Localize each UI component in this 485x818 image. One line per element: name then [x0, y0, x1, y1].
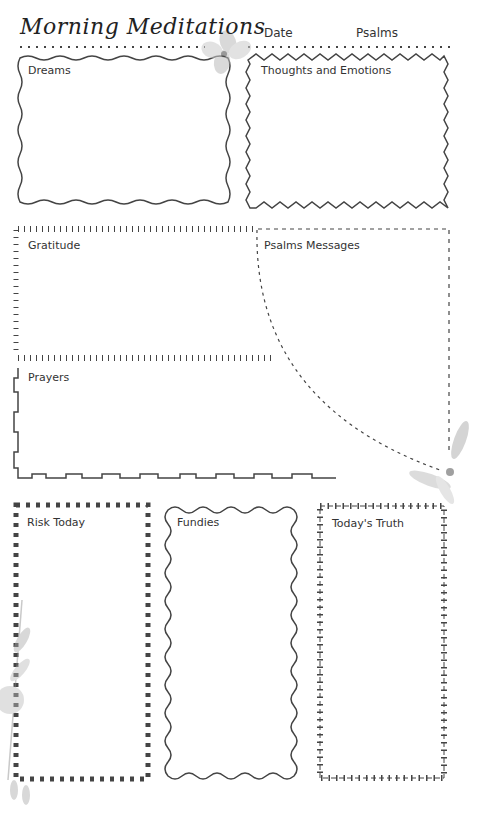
date-label: Date [264, 26, 293, 40]
risk-today-box [16, 505, 148, 779]
flower-right-icon [407, 419, 472, 506]
dreams-box [18, 56, 230, 204]
section-label-risk-today: Risk Today [27, 516, 85, 529]
psalms-label: Psalms [356, 26, 398, 40]
page-title: Morning Meditations [20, 14, 265, 39]
section-label-dreams: Dreams [28, 64, 71, 77]
section-label-psalms-messages: Psalms Messages [264, 239, 360, 252]
section-label-gratitude: Gratitude [28, 239, 80, 252]
thoughts-box [246, 54, 448, 208]
prayers-border [14, 368, 336, 478]
section-label-todays-truth: Today's Truth [332, 517, 404, 530]
section-label-thoughts: Thoughts and Emotions [261, 64, 391, 77]
page-artwork [0, 0, 485, 818]
todays-truth-box [320, 506, 444, 778]
section-label-prayers: Prayers [28, 371, 69, 384]
fundies-box [165, 507, 297, 779]
psalms-curve-border [257, 230, 440, 470]
section-label-fundies: Fundies [177, 516, 219, 529]
